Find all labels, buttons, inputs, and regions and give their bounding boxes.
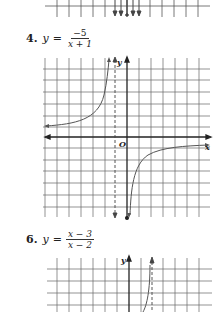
y-axis-label: y (120, 255, 127, 265)
problem-6-graph: y (0, 0, 223, 312)
